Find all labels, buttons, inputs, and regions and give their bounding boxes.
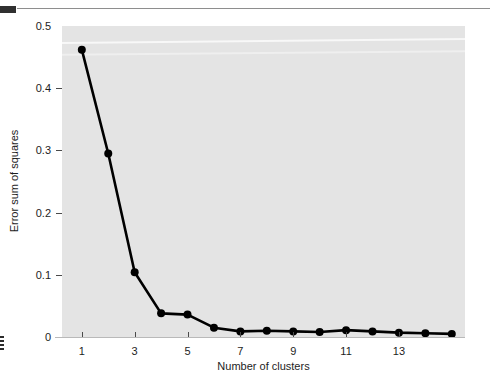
y-tick-mark xyxy=(56,213,62,214)
x-tick-mark xyxy=(399,332,400,337)
y-tick-mark xyxy=(56,88,62,89)
x-tick-label: 5 xyxy=(184,346,190,357)
x-axis-line xyxy=(55,337,465,338)
x-tick-label: 9 xyxy=(290,346,296,357)
x-tick-mark xyxy=(293,332,294,337)
x-tick-label: 11 xyxy=(340,346,351,357)
scan-rule-artifact xyxy=(17,8,490,9)
x-tick-label: 1 xyxy=(79,346,85,357)
series-markers xyxy=(78,46,456,337)
data-point xyxy=(448,330,456,337)
y-tick-label: 0.4 xyxy=(20,83,51,94)
y-tick-mark xyxy=(56,275,62,276)
x-tick-mark xyxy=(240,332,241,337)
scan-block-artifact xyxy=(0,6,16,13)
x-tick-label: 7 xyxy=(237,346,243,357)
line-chart-svg xyxy=(62,26,465,337)
y-tick-label: 0.3 xyxy=(20,145,51,156)
data-point xyxy=(263,327,271,335)
data-point xyxy=(157,309,165,317)
data-point xyxy=(184,311,192,319)
data-point xyxy=(210,324,218,332)
series-line-error-sum-of-squares xyxy=(82,50,452,334)
x-tick-mark xyxy=(82,332,83,337)
plot-area xyxy=(62,26,465,337)
y-axis-title: Error sum of squares xyxy=(9,130,20,233)
x-tick-label: 13 xyxy=(393,346,405,357)
x-tick-mark xyxy=(188,332,189,337)
data-point xyxy=(131,268,139,276)
x-tick-mark xyxy=(135,332,136,337)
figure-panel: 135791113 00.10.20.30.40.5 Number of clu… xyxy=(0,0,490,377)
y-tick-label: 0 xyxy=(20,332,51,343)
x-tick-mark xyxy=(346,332,347,337)
y-tick-label: 0.5 xyxy=(20,21,51,32)
data-point xyxy=(316,328,324,336)
scan-edge-mark-artifact xyxy=(0,336,4,352)
data-point xyxy=(369,327,377,335)
data-point xyxy=(421,329,429,337)
y-tick-label: 0.2 xyxy=(20,207,51,218)
y-tick-mark xyxy=(56,150,62,151)
data-point xyxy=(78,46,86,54)
x-tick-label: 3 xyxy=(132,346,138,357)
data-point xyxy=(104,150,112,158)
y-tick-label: 0.1 xyxy=(20,269,51,280)
x-axis-title: Number of clusters xyxy=(62,361,465,372)
